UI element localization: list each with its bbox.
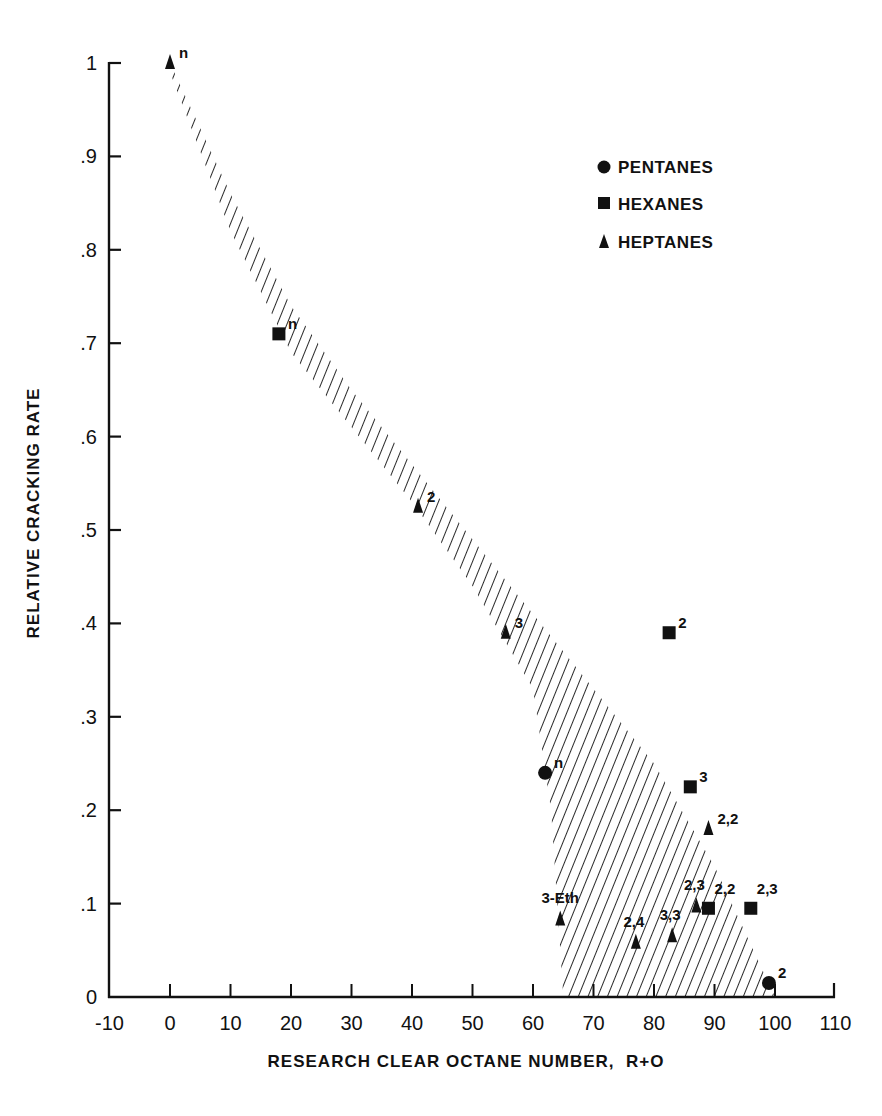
y-tick-label: .6 bbox=[80, 426, 97, 448]
x-tick-label: 110 bbox=[820, 1012, 852, 1034]
x-tick-label: 60 bbox=[522, 1012, 544, 1034]
legend-label-hexanes: HEXANES bbox=[618, 195, 704, 214]
data-point-hexanes: 2 bbox=[663, 614, 687, 640]
circle-marker-icon bbox=[538, 766, 552, 780]
x-tick-label: 80 bbox=[643, 1012, 665, 1034]
triangle-marker-icon bbox=[165, 54, 175, 69]
point-label: 3-Eth bbox=[541, 889, 579, 906]
y-tick-label: .1 bbox=[80, 893, 97, 915]
square-marker-icon bbox=[272, 327, 285, 340]
point-label: 2 bbox=[678, 614, 686, 631]
y-tick-label: .8 bbox=[80, 239, 97, 261]
y-tick-label: .9 bbox=[80, 145, 97, 167]
x-tick-label: 10 bbox=[219, 1012, 241, 1034]
x-tick-label: 50 bbox=[461, 1012, 483, 1034]
x-tick-label: 70 bbox=[582, 1012, 604, 1034]
square-marker-icon bbox=[684, 780, 697, 793]
chart: 0.1.2.3.4.5.6.7.8.91 -100102030405060708… bbox=[0, 0, 882, 1116]
circle-marker-icon bbox=[762, 976, 776, 990]
y-tick-label: .7 bbox=[80, 332, 97, 354]
square-marker-icon bbox=[744, 902, 757, 915]
x-tick-label: 90 bbox=[703, 1012, 725, 1034]
x-tick-label: 30 bbox=[340, 1012, 362, 1034]
point-label: 3 bbox=[515, 614, 523, 631]
point-label: 3 bbox=[699, 768, 707, 785]
data-point-pentanes: 2 bbox=[762, 964, 786, 990]
x-tick-label: 40 bbox=[401, 1012, 423, 1034]
x-tick-label: 100 bbox=[758, 1012, 791, 1034]
point-label: 2,4 bbox=[623, 913, 645, 930]
point-label: n bbox=[288, 315, 297, 332]
x-tick-label: 20 bbox=[280, 1012, 302, 1034]
y-tick-label: .5 bbox=[80, 519, 97, 541]
y-tick-label: 0 bbox=[86, 986, 97, 1008]
x-tick-label: -10 bbox=[95, 1012, 124, 1034]
legend: PENTANES HEXANES HEPTANES bbox=[598, 158, 714, 252]
point-label: n bbox=[554, 754, 563, 771]
data-point-hexanes: 2,3 bbox=[744, 880, 777, 915]
legend-square-icon bbox=[598, 197, 610, 209]
data-point-heptanes: n bbox=[165, 44, 188, 69]
point-label: n bbox=[179, 44, 188, 61]
y-axis-title: RELATIVE CRACKING RATE bbox=[24, 388, 43, 639]
point-label: 2 bbox=[778, 964, 786, 981]
y-tick-label: .2 bbox=[80, 799, 97, 821]
point-label: 3,3 bbox=[660, 906, 681, 923]
legend-label-heptanes: HEPTANES bbox=[618, 233, 713, 252]
legend-triangle-icon bbox=[599, 234, 609, 248]
y-tick-label: 1 bbox=[86, 52, 97, 74]
square-marker-icon bbox=[663, 626, 676, 639]
legend-circle-icon bbox=[598, 161, 611, 174]
data-point-hexanes: 3 bbox=[684, 768, 708, 794]
point-label: 2,2 bbox=[717, 810, 738, 827]
x-axis-title: RESEARCH CLEAR OCTANE NUMBER, R+O bbox=[268, 1052, 665, 1071]
y-tick-label: .3 bbox=[80, 706, 97, 728]
point-label: 2,3 bbox=[684, 876, 705, 893]
data-point-heptanes: 2,2 bbox=[703, 810, 738, 835]
square-marker-icon bbox=[702, 902, 715, 915]
point-label: 2 bbox=[427, 488, 435, 505]
legend-label-pentanes: PENTANES bbox=[618, 158, 713, 177]
point-label: 2,3 bbox=[757, 880, 778, 897]
x-tick-label: 0 bbox=[164, 1012, 175, 1034]
point-label: 2,2 bbox=[714, 880, 735, 897]
y-tick-label: .4 bbox=[80, 612, 97, 634]
y-ticks: 0.1.2.3.4.5.6.7.8.91 bbox=[80, 52, 121, 1008]
triangle-marker-icon bbox=[703, 820, 713, 835]
